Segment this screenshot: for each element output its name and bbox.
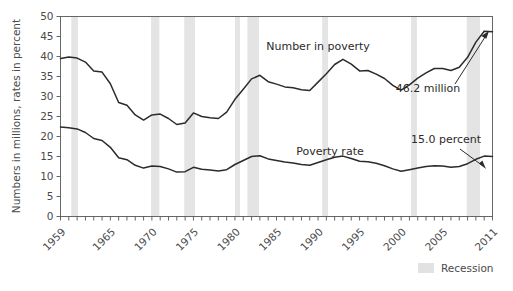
y-tick-label: 40: [40, 50, 53, 62]
poverty-chart-figure: 05101520253035404550 1959196519701975198…: [0, 0, 513, 291]
y-tick-label: 10: [40, 170, 53, 182]
series-label-poverty-rate: Poverty rate: [296, 145, 364, 158]
annotation-15-0-percent: 15.0 percent: [411, 133, 482, 146]
y-tick-label: 45: [40, 30, 53, 42]
recession-band: [411, 17, 417, 217]
y-tick-label: 30: [40, 90, 53, 102]
series-label-number-in-poverty: Number in poverty: [266, 40, 370, 53]
y-axis-title: Numbers in millions, rates in percent: [10, 19, 22, 213]
y-tick-label: 35: [40, 70, 53, 82]
legend-label-recession: Recession: [441, 262, 493, 274]
y-tick-label: 20: [40, 130, 53, 142]
y-tick-label: 15: [40, 150, 53, 162]
y-tick-label: 0: [47, 210, 54, 222]
y-tick-label: 50: [40, 10, 53, 22]
recession-band: [235, 17, 240, 217]
chart-canvas: 05101520253035404550 1959196519701975198…: [0, 0, 513, 291]
recession-band: [71, 17, 78, 217]
y-tick-label: 5: [47, 190, 54, 202]
recession-band: [247, 17, 259, 217]
legend-swatch-recession: [418, 263, 434, 273]
y-tick-label: 25: [40, 110, 53, 122]
annotation-46-2-million: 46.2 million: [396, 82, 461, 95]
recession-band: [151, 17, 159, 217]
